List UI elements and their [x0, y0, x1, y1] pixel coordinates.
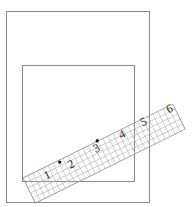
geometry-diagram: 123456: [0, 0, 195, 207]
ruler-strip: 123456: [21, 100, 185, 203]
diagram-canvas: 123456: [0, 0, 195, 207]
grid-line-horizontal: [33, 124, 183, 198]
